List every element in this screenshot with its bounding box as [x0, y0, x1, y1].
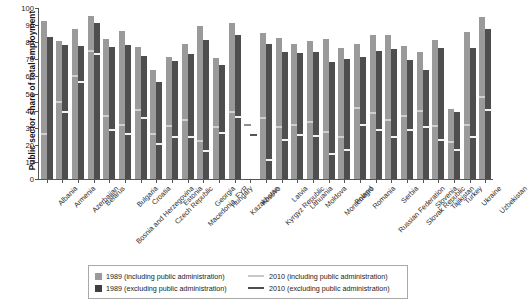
marker-2010-excluding: [344, 149, 351, 151]
bar-group: [196, 8, 212, 179]
bar-group: [477, 8, 493, 179]
marker-2010-excluding: [141, 117, 148, 119]
y-tick-label: 10: [14, 157, 34, 166]
bar-1989-excluding: [282, 52, 288, 179]
legend-label-1989-including: 1989 (including public administration): [106, 272, 225, 281]
bar-1989-excluding: [203, 40, 209, 179]
x-tick-label: Serbia: [399, 184, 420, 205]
bar-group: [102, 8, 118, 179]
legend-item-2010-including: 2010 (including public administration): [248, 272, 401, 281]
bar-group: [211, 8, 227, 179]
y-tick-label: 40: [14, 106, 34, 115]
bar-1989-excluding: [78, 46, 84, 179]
marker-2010-excluding: [235, 116, 242, 118]
marker-2010-excluding: [203, 150, 210, 152]
marker-2010-excluding: [470, 136, 477, 138]
marker-2010-excluding: [454, 149, 461, 151]
bar-group: [446, 8, 462, 179]
bar-1989-excluding: [172, 61, 178, 179]
marker-2010-excluding: [282, 139, 289, 141]
bar-1989-excluding: [109, 47, 115, 179]
bar-1989-excluding: [485, 29, 491, 179]
legend-row-including: 1989 (including public administration) 2…: [95, 270, 401, 282]
marker-2010-including: [244, 124, 251, 126]
x-axis-labels: AlbaniaArmeniaAzerbaijanBelarusBosnia an…: [38, 182, 493, 254]
y-tick-label: 60: [14, 72, 34, 81]
bar-group: [164, 8, 180, 179]
legend-line-2010-excluding-icon: [248, 287, 264, 289]
bar-1989-excluding: [297, 53, 303, 179]
bar-group: [117, 8, 133, 179]
bar-group: [274, 8, 290, 179]
bar-group: [39, 8, 55, 179]
bar-group: [70, 8, 86, 179]
marker-2010-excluding: [94, 53, 101, 55]
bar-1989-excluding: [391, 49, 397, 179]
legend-swatch-1989-excluding-icon: [95, 285, 102, 292]
marker-2010-excluding: [329, 153, 336, 155]
bar-1989-excluding: [438, 48, 444, 179]
bar-1989-excluding: [329, 62, 335, 179]
bar-1989-excluding: [423, 70, 429, 179]
bar-group: [462, 8, 478, 179]
marker-2010-excluding: [360, 124, 367, 126]
bar-group: [321, 8, 337, 179]
bar-1989-excluding: [376, 51, 382, 179]
bar-1989-excluding: [62, 45, 68, 179]
y-tick-label: 50: [14, 89, 34, 98]
y-tick-label: 90: [14, 21, 34, 30]
bar-group: [430, 8, 446, 179]
bar-group: [399, 8, 415, 179]
bar-group: [336, 8, 352, 179]
bar-group: [86, 8, 102, 179]
marker-2010-excluding: [125, 133, 132, 135]
legend-item-1989-including: 1989 (including public administration): [95, 272, 248, 281]
bar-group: [133, 8, 149, 179]
marker-2010-excluding: [188, 136, 195, 138]
bar-group: [368, 8, 384, 179]
bar-group: [180, 8, 196, 179]
bar-group: [227, 8, 243, 179]
marker-2010-excluding: [109, 129, 116, 131]
legend-row-excluding: 1989 (excluding public administration) 2…: [95, 282, 401, 294]
bar-1989-excluding: [219, 65, 225, 179]
bar-1989-excluding: [141, 56, 147, 179]
marker-2010-excluding: [391, 136, 398, 138]
bar-1989-excluding: [125, 45, 131, 179]
plot-area: 0102030405060708090100: [38, 8, 493, 180]
marker-2010-excluding: [423, 126, 430, 128]
bar-1989-excluding: [156, 82, 162, 179]
bar-1989-excluding: [360, 57, 366, 179]
marker-2010-excluding: [376, 129, 383, 131]
bar-1989-excluding: [94, 23, 100, 179]
marker-2010-excluding: [438, 139, 445, 141]
marker-2010-excluding: [266, 159, 273, 161]
marker-2010-excluding: [156, 143, 163, 145]
chart-legend: 1989 (including public administration) 2…: [88, 265, 408, 299]
y-tick-mark: [35, 179, 39, 180]
bar-group: [243, 8, 259, 179]
marker-2010-excluding: [250, 134, 257, 136]
bar-group: [305, 8, 321, 179]
marker-2010-excluding: [407, 129, 414, 131]
legend-item-2010-excluding: 2010 (excluding public administration): [248, 284, 401, 293]
legend-label-2010-including: 2010 (including public administration): [269, 272, 388, 281]
marker-2010-excluding: [172, 136, 179, 138]
bar-group: [258, 8, 274, 179]
y-tick-label: 80: [14, 38, 34, 47]
bar-1989-excluding: [313, 52, 319, 179]
legend-line-2010-including-icon: [248, 275, 264, 277]
marker-2010-excluding: [313, 135, 320, 137]
bar-group: [383, 8, 399, 179]
bar-1989-excluding: [235, 35, 241, 179]
legend-swatch-1989-including-icon: [95, 273, 102, 280]
y-tick-label: 30: [14, 123, 34, 132]
bar-1989-excluding: [188, 54, 194, 179]
marker-2010-excluding: [485, 109, 492, 111]
bar-1989-excluding: [344, 59, 350, 179]
x-tick-label: Kosovo: [259, 184, 282, 207]
bar-group: [352, 8, 368, 179]
y-tick-label: 70: [14, 55, 34, 64]
bar-1989-excluding: [47, 37, 53, 179]
